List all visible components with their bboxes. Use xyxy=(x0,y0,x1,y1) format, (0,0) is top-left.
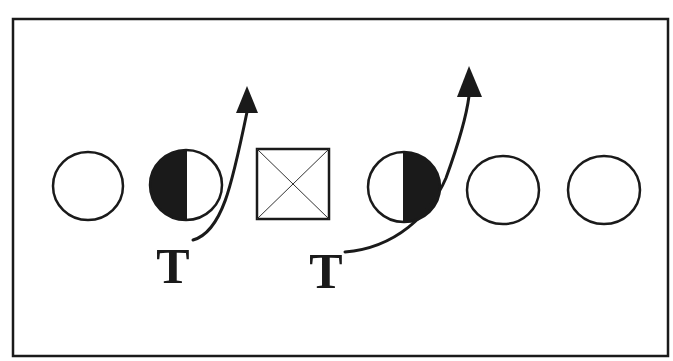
defender-label-1: T xyxy=(156,238,189,294)
lineman-4 xyxy=(368,152,440,222)
diagram-border xyxy=(13,19,668,356)
lineman-1 xyxy=(53,152,123,220)
lineman-2 xyxy=(150,150,222,220)
lineman-circle xyxy=(568,156,640,224)
arrowhead-icon xyxy=(236,86,258,113)
lineman-circle xyxy=(53,152,123,220)
offensive-linemen xyxy=(53,150,640,224)
defensive-tackles: TT xyxy=(156,238,342,299)
tackle-routes xyxy=(193,66,482,252)
lineman-6 xyxy=(568,156,640,224)
lineman-5 xyxy=(467,156,539,224)
defender-label-2: T xyxy=(309,243,342,299)
lineman-circle xyxy=(467,156,539,224)
play-diagram: TT xyxy=(0,0,673,361)
arrowhead-icon xyxy=(457,66,482,97)
center-player xyxy=(257,149,329,219)
